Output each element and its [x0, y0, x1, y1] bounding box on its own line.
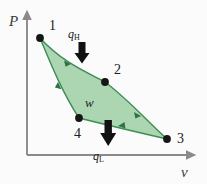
heat-out-subscript: L [99, 155, 104, 164]
work-label: w [85, 96, 94, 109]
y-axis-label: P [9, 14, 18, 29]
state-point-1 [36, 34, 44, 42]
state-label-3: 3 [177, 132, 184, 146]
state-point-3 [163, 135, 171, 143]
state-point-2 [101, 78, 109, 86]
heat-in-label: qH [68, 28, 80, 40]
heat-in-arrow [75, 42, 90, 64]
state-point-4 [75, 114, 83, 122]
x-axis-label: v [181, 165, 188, 180]
heat-out-label: qL [93, 150, 104, 162]
state-label-1: 1 [49, 19, 56, 33]
heat-in-subscript: H [74, 33, 80, 42]
state-label-2: 2 [114, 63, 121, 77]
state-label-4: 4 [74, 127, 81, 141]
pv-diagram-figure: P v 1 2 3 4 w qH qL [0, 0, 207, 184]
